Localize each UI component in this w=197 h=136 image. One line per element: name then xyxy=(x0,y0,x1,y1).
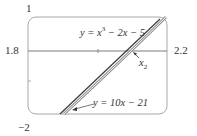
tangent-equation-label: y = 10x − 21 xyxy=(93,98,148,109)
tangent-pointer-line xyxy=(75,104,94,109)
x-min-label: 1.8 xyxy=(5,45,19,56)
x-max-label: 2.2 xyxy=(174,45,188,56)
x2-label: x2 xyxy=(139,58,147,71)
curve-equation-label: y = x3 − 2x − 5 xyxy=(80,26,145,38)
y-min-label: −2 xyxy=(18,122,30,133)
y-max-label: 1 xyxy=(26,3,32,14)
x2-subscript: 2 xyxy=(144,63,148,71)
plot-canvas xyxy=(0,0,197,136)
curve-eq-rest: − 2x − 5 xyxy=(105,27,145,38)
curve-eq-base: y = x xyxy=(80,27,102,38)
